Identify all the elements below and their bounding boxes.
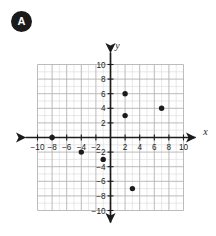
data-point — [130, 186, 135, 191]
data-point — [122, 113, 127, 118]
data-point — [49, 135, 54, 140]
y-tick-label: −10 — [92, 207, 106, 216]
x-tick-label: −10 — [31, 143, 45, 152]
data-point — [79, 149, 84, 154]
axis-name-labels: xy — [114, 40, 208, 137]
worksheet-figure: A −10−8−6−4−2246810108642−2−4−6−8−10 xy — [0, 0, 216, 236]
y-tick-label: −4 — [96, 163, 106, 172]
coordinate-plane: −10−8−6−4−2246810108642−2−4−6−8−10 xy — [0, 0, 216, 236]
y-tick-label: 6 — [101, 90, 106, 99]
y-tick-label: −6 — [96, 177, 106, 186]
x-axis-label: x — [202, 126, 208, 137]
y-tick-label: −8 — [96, 192, 106, 201]
x-tick-label: 2 — [123, 143, 128, 152]
x-tick-label: 4 — [137, 143, 142, 152]
y-tick-label: 2 — [101, 119, 106, 128]
y-tick-label: 10 — [96, 61, 106, 70]
x-tick-label: 10 — [179, 143, 189, 152]
data-point — [122, 91, 127, 96]
y-tick-label: 4 — [101, 104, 106, 113]
y-tick-label: −2 — [96, 148, 106, 157]
x-tick-label: −6 — [62, 143, 72, 152]
data-point — [159, 106, 164, 111]
x-tick-label: 6 — [152, 143, 157, 152]
x-tick-label: −8 — [47, 143, 57, 152]
data-point — [101, 157, 106, 162]
scatter-plot-svg: −10−8−6−4−2246810108642−2−4−6−8−10 xy — [0, 0, 216, 236]
y-axis-label: y — [114, 40, 120, 51]
y-tick-label: 8 — [101, 75, 106, 84]
x-tick-label: 8 — [167, 143, 172, 152]
